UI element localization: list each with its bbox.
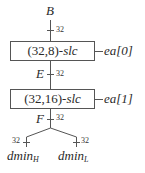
slc-block-1-prefix: (32,16)- — [24, 91, 66, 107]
signal-e-label: E — [36, 66, 44, 82]
slc-block-0-prefix: (32,8)- — [27, 43, 63, 59]
ea-0-label: ea[0] — [104, 43, 133, 59]
dmin-l-label: dminL — [58, 148, 88, 164]
input-b-width: 32 — [56, 25, 64, 34]
slc-diagram: B 32 (32,8)-slc ea[0] E 32 (32,16)-slc e… — [0, 0, 145, 173]
signal-f-width: 32 — [56, 113, 64, 122]
dmin-l-width: 32 — [81, 136, 89, 145]
ea-1-label: ea[1] — [104, 91, 133, 107]
signal-f-label: F — [36, 111, 44, 127]
input-b-label: B — [46, 3, 54, 19]
slc-block-1: (32,16)-slc — [10, 89, 95, 109]
signal-e-width: 32 — [56, 69, 64, 78]
dmin-h-width: 32 — [12, 136, 20, 145]
slc-block-1-name: slc — [66, 91, 80, 107]
dmin-h-label: dminH — [7, 148, 39, 164]
slc-block-0-name: slc — [63, 43, 77, 59]
slc-block-0: (32,8)-slc — [10, 41, 95, 61]
